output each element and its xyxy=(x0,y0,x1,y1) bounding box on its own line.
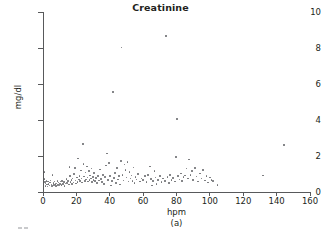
x-tick-label: 40 xyxy=(95,197,125,206)
data-point xyxy=(77,181,79,183)
data-point xyxy=(117,179,119,181)
x-tick-label: 140 xyxy=(262,197,292,206)
y-axis-title: mg/dl xyxy=(13,67,23,127)
data-point xyxy=(92,176,94,178)
data-point xyxy=(114,172,116,174)
data-point xyxy=(67,180,69,182)
x-tick-label: 160 xyxy=(295,197,321,206)
data-point xyxy=(115,182,117,184)
data-point xyxy=(81,182,83,184)
data-point xyxy=(172,177,174,179)
data-point xyxy=(100,178,102,180)
data-point xyxy=(184,175,186,177)
data-point xyxy=(134,182,136,184)
data-point xyxy=(207,182,209,184)
data-point xyxy=(177,175,179,177)
data-point xyxy=(118,175,120,177)
data-point xyxy=(194,167,196,169)
data-point xyxy=(88,170,90,172)
data-point xyxy=(206,175,208,177)
data-point xyxy=(104,176,106,178)
x-tick-label: 120 xyxy=(228,197,258,206)
data-point xyxy=(95,177,97,179)
data-point xyxy=(169,174,171,176)
data-point xyxy=(196,176,198,178)
data-point xyxy=(183,176,185,178)
data-point xyxy=(171,179,173,181)
data-point xyxy=(86,166,88,168)
data-point xyxy=(50,180,52,182)
data-point xyxy=(83,176,85,178)
data-point xyxy=(176,118,178,120)
data-point xyxy=(91,181,93,183)
data-point xyxy=(121,47,123,49)
data-point xyxy=(98,180,100,182)
data-point xyxy=(122,174,124,176)
x-axis-title: hpm xyxy=(43,207,310,217)
data-point xyxy=(126,177,128,179)
data-point xyxy=(128,181,130,183)
data-point xyxy=(49,185,51,187)
data-point xyxy=(113,177,115,179)
data-point xyxy=(64,185,66,187)
data-point xyxy=(167,176,169,178)
data-point xyxy=(123,180,125,182)
data-point xyxy=(212,180,214,182)
data-point xyxy=(106,153,108,155)
data-point xyxy=(81,178,83,180)
data-point xyxy=(179,179,181,181)
data-point xyxy=(93,172,95,174)
data-point xyxy=(164,180,166,182)
panel-caption: (a) xyxy=(43,218,310,228)
data-point xyxy=(77,158,79,160)
data-point xyxy=(156,183,158,185)
data-point xyxy=(80,170,82,172)
data-point xyxy=(105,165,107,167)
data-point xyxy=(155,177,157,179)
data-point xyxy=(188,159,190,161)
data-point xyxy=(71,183,73,185)
data-point xyxy=(79,175,81,177)
data-point xyxy=(190,174,192,176)
data-point xyxy=(85,172,87,174)
data-point xyxy=(90,178,92,180)
data-point xyxy=(136,179,138,181)
data-point xyxy=(44,171,46,173)
data-point xyxy=(111,180,113,182)
data-point xyxy=(75,180,77,182)
data-point xyxy=(127,161,129,163)
data-point xyxy=(146,181,148,183)
data-point xyxy=(124,164,126,166)
data-point xyxy=(217,184,219,186)
data-point xyxy=(135,176,137,178)
data-point xyxy=(159,175,161,177)
data-point xyxy=(157,179,159,181)
data-point xyxy=(119,184,121,186)
data-point xyxy=(192,179,194,181)
data-point xyxy=(133,167,135,169)
data-point xyxy=(108,162,110,164)
data-point xyxy=(165,35,167,37)
data-point xyxy=(137,173,139,175)
data-point xyxy=(132,180,134,182)
x-tick-label: 100 xyxy=(195,197,225,206)
data-point xyxy=(201,178,203,180)
x-tick-label: 60 xyxy=(128,197,158,206)
data-point xyxy=(82,143,84,145)
data-point xyxy=(152,180,154,182)
data-point xyxy=(116,167,118,169)
plot-area xyxy=(43,12,310,192)
data-point xyxy=(68,184,70,186)
data-point xyxy=(147,174,149,176)
data-point xyxy=(102,174,104,176)
data-point xyxy=(131,175,133,177)
data-point xyxy=(69,175,71,177)
data-point xyxy=(45,185,47,187)
data-point xyxy=(96,182,98,184)
data-point xyxy=(83,163,85,165)
data-point xyxy=(175,156,177,158)
x-tick-label: 20 xyxy=(61,197,91,206)
data-point xyxy=(283,144,285,146)
x-tick-label: 0 xyxy=(28,197,58,206)
data-point xyxy=(84,180,86,182)
